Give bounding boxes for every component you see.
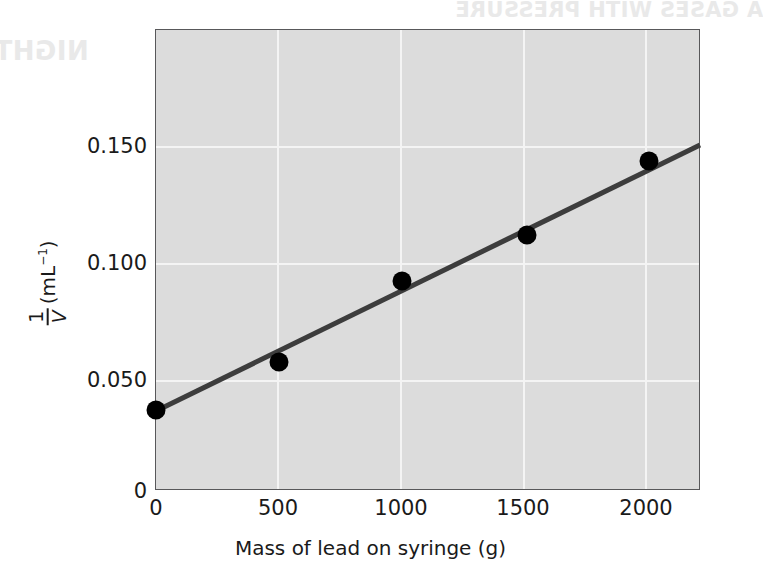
gridline-vertical-2000 — [645, 30, 647, 489]
x-axis-title: Mass of lead on syringe (g) — [0, 536, 741, 560]
y-axis-units: (mL−1) — [35, 241, 59, 305]
y-tick-label-0100: 0.100 — [87, 251, 147, 275]
y-axis-units-open: (mL — [35, 266, 59, 304]
gridline-vertical-500 — [277, 30, 279, 489]
plot-area — [155, 29, 700, 490]
y-axis-fraction-denominator: V — [48, 308, 68, 325]
y-axis-title: 1 V (mL−1) — [11, 228, 83, 338]
gridline-horizontal-0100 — [156, 263, 699, 265]
gridline-vertical-1000 — [400, 30, 402, 489]
ghost-bleedthrough-left-text: NIGHT — [0, 36, 89, 66]
x-tick-label-500: 500 — [258, 496, 298, 520]
x-tick-label-1000: 1000 — [374, 496, 427, 520]
y-axis-title-inner: 1 V (mL−1) — [26, 241, 68, 326]
y-axis-fraction: 1 V — [26, 308, 68, 325]
gridline-horizontal-0150 — [156, 146, 699, 148]
x-tick-label-2000: 2000 — [619, 496, 672, 520]
y-axis-fraction-numerator: 1 — [26, 309, 46, 325]
y-tick-label-0050: 0.050 — [87, 368, 147, 392]
x-tick-label-0: 0 — [149, 496, 162, 520]
y-axis-units-close: ) — [35, 241, 59, 249]
y-tick-label-0150: 0.150 — [87, 134, 147, 158]
y-tick-label-0: 0 — [134, 479, 147, 503]
ghost-bleedthrough-right-text: A GASES WITH PRESSURE — [455, 0, 763, 22]
y-axis-units-exponent: −1 — [35, 248, 49, 266]
x-tick-label-1500: 1500 — [496, 496, 549, 520]
gridline-vertical-1500 — [523, 30, 525, 489]
gridline-horizontal-0050 — [156, 380, 699, 382]
